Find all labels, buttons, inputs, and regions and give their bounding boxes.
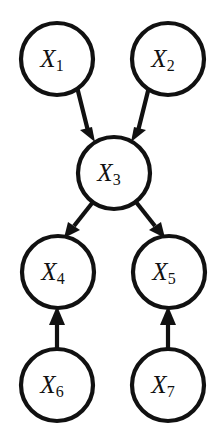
edge-x2-to-x3	[131, 87, 149, 142]
dag-canvas: X1 X2 X3 X4 X5 X6 X7	[0, 0, 224, 442]
dag-figure: X1 X2 X3 X4 X5 X6 X7	[0, 0, 224, 442]
node-x5[interactable]: X5	[133, 236, 205, 308]
edge-x1-to-x3	[77, 87, 95, 142]
edge-x6-to-x4	[49, 306, 65, 348]
edge-x1-to-x3-arrowhead	[80, 127, 95, 142]
edge-x7-to-x5	[160, 306, 176, 348]
node-x1[interactable]: X1	[21, 23, 93, 95]
node-x6[interactable]: X6	[21, 349, 93, 421]
edge-x3-to-x5	[136, 202, 165, 238]
edge-x1-to-x3-line	[77, 87, 88, 131]
edge-x3-to-x5-line	[136, 202, 155, 226]
edge-x2-to-x3-line	[138, 87, 149, 131]
edge-x3-to-x4	[64, 202, 93, 238]
node-x2[interactable]: X2	[132, 23, 204, 95]
node-x3[interactable]: X3	[78, 137, 150, 209]
node-x4[interactable]: X4	[22, 236, 94, 308]
edge-x3-to-x4-line	[74, 202, 93, 226]
edge-x2-to-x3-arrowhead	[131, 127, 146, 142]
node-x7[interactable]: X7	[132, 349, 204, 421]
